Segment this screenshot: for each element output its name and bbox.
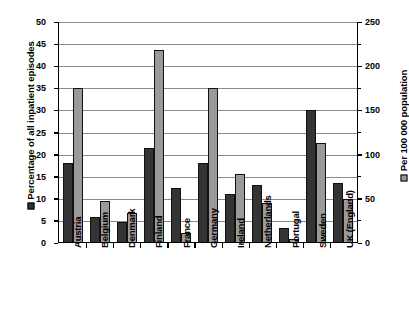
y-axis-right-minor-tick: [358, 44, 361, 45]
x-axis-label: Denmark: [126, 209, 137, 248]
x-axis-label-cell: Sweden: [303, 248, 330, 322]
y-axis-right-tick-mark: [358, 243, 362, 245]
x-axis-label-cell: Belgium: [85, 248, 112, 322]
x-axis-label-cell: Netherlands: [249, 248, 276, 322]
y-axis-left-tick-label: 15: [22, 173, 46, 182]
y-axis-right-minor-tick: [358, 132, 361, 133]
bar-group: [140, 22, 167, 243]
x-axis-label: Belgium: [99, 212, 110, 248]
legend-swatch-gray-square: [401, 174, 408, 181]
y-axis-left-tick-label: 25: [22, 129, 46, 138]
bar-percentage-inpatient-episodes: [306, 110, 316, 243]
x-axis-label: Portugal: [290, 211, 301, 248]
right-axis-title: Per 100 000 population: [398, 26, 409, 226]
y-axis-right-tick-label: 200: [365, 62, 391, 71]
bar-group: [59, 22, 86, 243]
y-axis-right-tick-label: 0: [365, 239, 391, 248]
x-axis-label-cell: UK (England): [331, 248, 358, 322]
y-axis-right-tick-mark: [358, 110, 362, 112]
bar-group: [222, 22, 249, 243]
x-axis-label: Germany: [208, 208, 219, 248]
y-axis-left-tick-label: 30: [22, 106, 46, 115]
y-axis-left-tick-label: 40: [22, 62, 46, 71]
y-axis-right-tick-mark: [358, 198, 362, 200]
y-axis-left-tick-label: 35: [22, 84, 46, 93]
bar-percentage-inpatient-episodes: [198, 163, 208, 243]
bar-percentage-inpatient-episodes: [171, 188, 181, 243]
bar-group: [167, 22, 194, 243]
y-axis-right-tick-label: 250: [365, 18, 391, 27]
y-axis-right-tick-label: 50: [365, 195, 391, 204]
y-axis-right-tick-mark: [358, 22, 362, 24]
x-axis-label-cell: Germany: [194, 248, 221, 322]
x-axis-label-cell: Portugal: [276, 248, 303, 322]
bar-chart: Percentage of all inpatient episodes Per…: [0, 0, 409, 324]
x-axis-label-cell: Finland: [140, 248, 167, 322]
y-axis-right-minor-tick: [358, 88, 361, 89]
y-axis-right-tick-label: 100: [365, 151, 391, 160]
x-axis-label: Sweden: [317, 213, 328, 248]
x-axis-label: Netherlands: [262, 195, 273, 248]
y-axis-left-tick-label: 0: [22, 239, 46, 248]
right-axis-title-label: Per 100 000 population: [398, 70, 409, 171]
x-axis-label-cell: Ireland: [222, 248, 249, 322]
bar-group: [276, 22, 303, 243]
y-axis-right-minor-tick: [358, 220, 361, 221]
y-axis-left-tick-label: 10: [22, 195, 46, 204]
x-axis-label: Finland: [153, 216, 164, 248]
y-axis-left-tick-label: 20: [22, 151, 46, 160]
y-axis-right-tick-label: 150: [365, 106, 391, 115]
x-axis-label-cell: Denmark: [113, 248, 140, 322]
legend-swatch-dark-square: [28, 203, 35, 210]
x-axis-label: Austria: [72, 217, 83, 248]
bar-percentage-inpatient-episodes: [333, 183, 343, 243]
y-axis-right-tick-mark: [358, 66, 362, 68]
x-axis-label-cell: France: [167, 248, 194, 322]
bar-group: [86, 22, 113, 243]
x-axis-labels: AustriaBelgiumDenmarkFinlandFranceGerman…: [58, 248, 358, 322]
x-axis-label: Ireland: [235, 218, 246, 248]
y-axis-left-tick-label: 50: [22, 18, 46, 27]
bar-group: [303, 22, 330, 243]
bar-per-100000-population: [154, 50, 164, 243]
y-axis-right-minor-tick: [358, 176, 361, 177]
x-axis-label: UK (England): [344, 190, 355, 248]
y-axis-right-tick-mark: [358, 154, 362, 156]
y-axis-left-tick-label: 5: [22, 217, 46, 226]
x-axis-label-cell: Austria: [58, 248, 85, 322]
bar-percentage-inpatient-episodes: [225, 194, 235, 243]
y-axis-left-tick-label: 45: [22, 40, 46, 49]
bar-percentage-inpatient-episodes: [252, 185, 262, 243]
x-axis-label: France: [181, 218, 192, 248]
